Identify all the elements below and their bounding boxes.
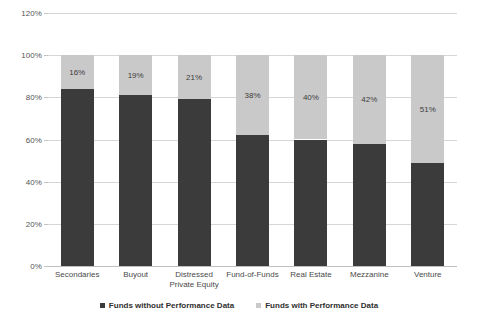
legend-label: Funds with Performance Data — [265, 301, 378, 310]
bar-segment-funds-without-performance-data[interactable] — [236, 135, 269, 266]
bar-value-label: 42% — [353, 95, 386, 104]
bar-value-label: 16% — [61, 68, 94, 77]
y-axis-label: 20% — [26, 219, 42, 228]
bar-value-label: 51% — [411, 104, 444, 113]
legend-swatch-icon — [256, 303, 261, 308]
bar-group[interactable]: 40% — [294, 13, 327, 266]
bar-value-label: 21% — [178, 73, 211, 82]
bar-segment-funds-without-performance-data[interactable] — [178, 99, 211, 266]
chart-legend: Funds without Performance DataFunds with… — [0, 301, 478, 310]
y-axis-label: 40% — [26, 177, 42, 186]
bar-segment-funds-without-performance-data[interactable] — [119, 95, 152, 266]
legend-swatch-icon — [100, 303, 105, 308]
bar-group[interactable]: 19% — [119, 13, 152, 266]
y-axis-label: 60% — [26, 135, 42, 144]
bars-layer: 16%19%21%38%40%42%51% — [48, 13, 457, 266]
bar-segment-funds-without-performance-data[interactable] — [294, 140, 327, 267]
y-axis-tick — [44, 266, 48, 267]
bar-segment-funds-without-performance-data[interactable] — [353, 144, 386, 266]
bar-value-label: 40% — [294, 93, 327, 102]
y-axis-label: 0% — [30, 262, 42, 271]
x-axis-label: Fund-of-Funds — [223, 270, 281, 280]
y-axis-label: 80% — [26, 93, 42, 102]
x-axis-label: Distressed Private Equity — [165, 270, 223, 290]
legend-item[interactable]: Funds with Performance Data — [256, 301, 378, 310]
y-axis-label: 120% — [21, 9, 42, 18]
bar-value-label: 38% — [236, 91, 269, 100]
bar-value-label: 19% — [119, 71, 152, 80]
bar-group[interactable]: 38% — [236, 13, 269, 266]
y-axis-label: 100% — [21, 51, 42, 60]
x-axis-labels: SecondariesBuyoutDistressed Private Equi… — [48, 270, 457, 300]
legend-label: Funds without Performance Data — [109, 301, 234, 310]
x-axis-label: Mezzanine — [340, 270, 398, 280]
bar-group[interactable]: 16% — [61, 13, 94, 266]
x-axis-label: Venture — [399, 270, 457, 280]
stacked-bar-chart: 0%20%40%60%80%100%120% 16%19%21%38%40%42… — [0, 0, 478, 318]
bar-group[interactable]: 21% — [178, 13, 211, 266]
bar-segment-funds-without-performance-data[interactable] — [61, 89, 94, 266]
bar-group[interactable]: 42% — [353, 13, 386, 266]
legend-item[interactable]: Funds without Performance Data — [100, 301, 234, 310]
bar-segment-funds-without-performance-data[interactable] — [411, 163, 444, 266]
plot-area: 0%20%40%60%80%100%120% 16%19%21%38%40%42… — [48, 13, 457, 266]
x-axis-label: Secondaries — [48, 270, 106, 280]
gridline — [48, 266, 457, 267]
bar-group[interactable]: 51% — [411, 13, 444, 266]
x-axis-label: Real Estate — [282, 270, 340, 280]
x-axis-label: Buyout — [106, 270, 164, 280]
